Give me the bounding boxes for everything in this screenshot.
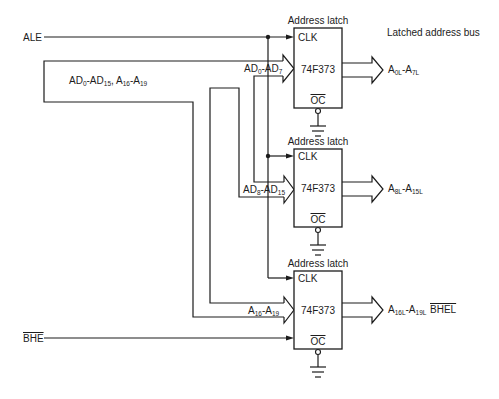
output-bus-arrow-icon [342, 57, 383, 83]
subscript: 15 [278, 189, 286, 196]
bus-arrowhead-icon [284, 297, 294, 323]
latch-2-output-bus-label: A8L-A15L [388, 183, 423, 195]
inversion-bubble-icon [316, 228, 321, 233]
text-part: -A [262, 305, 272, 316]
inversion-bubble-icon [316, 109, 321, 114]
clk-pin-label: CLK [298, 273, 318, 284]
chip-label: 74F373 [301, 64, 335, 75]
inversion-bubble-icon [316, 350, 321, 355]
address-latch-3: Address latch CLK 74F373 OC [288, 258, 349, 377]
latch-2-input-bus-label: AD8-AD15 [243, 184, 285, 196]
ale-signal [44, 35, 294, 40]
output-bus-arrow-icon [342, 176, 383, 202]
subscript: 19 [272, 310, 280, 317]
bus-middle-path [210, 88, 284, 303]
ground-icon [310, 233, 326, 256]
latch-title: Address latch [288, 136, 349, 147]
oc-pin-label: OC [311, 336, 326, 347]
chip-label: 74F373 [301, 305, 335, 316]
subscript: 7L [412, 69, 420, 76]
oc-pin-label: OC [311, 95, 326, 106]
text-part: -AD [262, 63, 279, 74]
bhe-label: BHE [23, 333, 44, 344]
output-buses [342, 57, 383, 323]
text-part: -AD [87, 75, 104, 86]
text-part: AD [243, 184, 257, 195]
bhel-output-label: BHEL [430, 304, 457, 315]
latch-title: Address latch [288, 258, 349, 269]
text-part: AD [244, 63, 258, 74]
subscript: 19L [416, 309, 427, 316]
ale-arrowhead-icon [286, 35, 294, 40]
latched-address-bus-label: Latched address bus [387, 27, 480, 38]
subscript: 19 [140, 80, 148, 87]
latch-title: Address latch [288, 15, 349, 26]
diagram-svg: Address latch CLK 74F373 OC Address latc… [0, 0, 499, 399]
ale-label: ALE [23, 32, 42, 43]
text-part: AD [69, 75, 83, 86]
address-latch-2: Address latch CLK 74F373 OC [288, 136, 349, 255]
subscript: 7 [279, 68, 283, 75]
ground-icon [310, 355, 326, 378]
text-part: -A [402, 64, 412, 75]
subscript: 16L [395, 309, 406, 316]
oc-pin-label: OC [311, 214, 326, 225]
latch-1-output-bus-label: A0L-A7L [388, 64, 420, 76]
chip-label: 74F373 [301, 183, 335, 194]
latch-3-input-bus-label: A16-A19 [248, 305, 280, 317]
bhe-signal [44, 336, 294, 341]
address-latch-1: Address latch CLK 74F373 OC [288, 15, 349, 136]
ground-icon [310, 114, 326, 137]
text-part: -A [402, 183, 412, 194]
bus-inner-path [254, 76, 284, 182]
multiplexed-bus-label: AD0-AD15, A16-A19 [69, 75, 148, 87]
clk-arrowhead-icon [286, 154, 294, 159]
latch-circuit-diagram: Address latch CLK 74F373 OC Address latc… [0, 0, 499, 399]
latch-1-input-bus-label: AD0-AD7 [244, 63, 283, 75]
bhe-arrowhead-icon [286, 336, 294, 341]
bus-arrowhead-icon [283, 55, 294, 82]
text-part: -A [130, 75, 140, 86]
clk-arrowhead-icon [286, 276, 294, 281]
subscript: 15L [412, 188, 423, 195]
text-part: , A [111, 75, 123, 86]
latch-3-output-bus-label: A16L-A19L [388, 304, 427, 316]
text-part: -AD [261, 184, 278, 195]
clk-pin-label: CLK [298, 151, 318, 162]
text-part: -A [406, 304, 416, 315]
clk-pin-label: CLK [298, 32, 318, 43]
output-bus-arrow-icon [342, 297, 383, 323]
bus-arrowhead-icon [284, 176, 294, 203]
